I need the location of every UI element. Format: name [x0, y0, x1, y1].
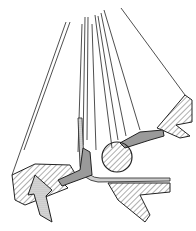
round-cord — [102, 142, 132, 172]
lower-frame-section — [108, 183, 170, 222]
cross-section-drawing — [0, 0, 196, 231]
technical-illustration — [0, 0, 196, 231]
profile-lines — [12, 8, 185, 175]
